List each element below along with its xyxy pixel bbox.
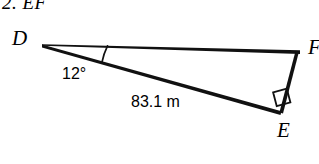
triangle-drawing bbox=[0, 0, 319, 164]
segment-df-line bbox=[42, 44, 300, 54]
vertex-label-d: D bbox=[12, 28, 27, 49]
vertex-label-f: F bbox=[308, 37, 319, 58]
right-angle-mark-e bbox=[273, 89, 290, 107]
angle-arc-d bbox=[102, 46, 108, 62]
vertex-label-e: E bbox=[277, 120, 290, 141]
problem-heading: 2. EF bbox=[2, 0, 47, 12]
geometry-figure: 2. EF D F E 12° 83.1 m bbox=[0, 0, 319, 164]
angle-measure-label: 12° bbox=[62, 66, 86, 82]
side-length-label: 83.1 m bbox=[131, 94, 180, 110]
